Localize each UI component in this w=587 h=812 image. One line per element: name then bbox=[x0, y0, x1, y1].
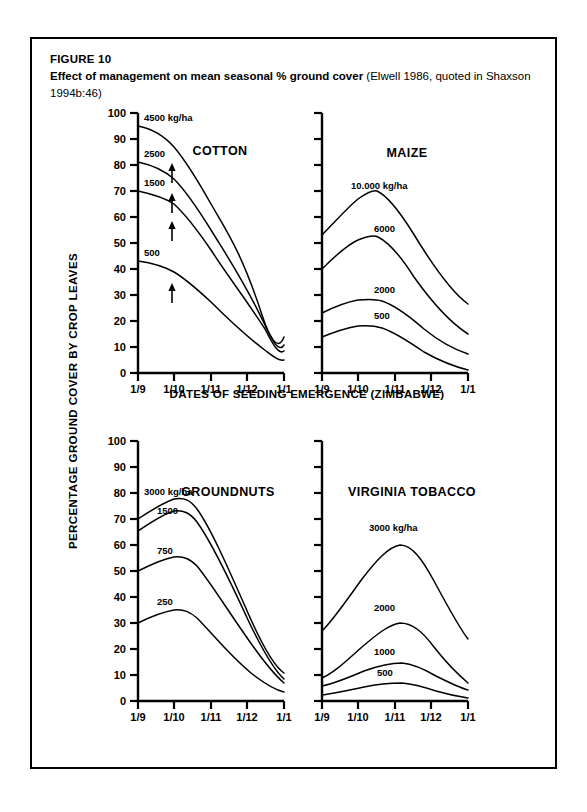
figure-number: FIGURE 10 bbox=[50, 51, 537, 68]
ytick-50: 50 bbox=[114, 565, 126, 577]
curve-maize-500 bbox=[322, 326, 468, 370]
cotton-curves bbox=[138, 126, 284, 360]
series-label-maize-10000: 10.000 kg/ha bbox=[351, 180, 408, 191]
series-label-tobacco-3000: 3000 kg/ha bbox=[369, 522, 418, 533]
curve-groundnuts-1500 bbox=[138, 511, 284, 679]
groundnuts-series-labels: 3000 kg/ha 1500 750 250 bbox=[144, 486, 193, 607]
groundnuts-axes: 0 10 20 30 40 50 60 70 80 90 100 bbox=[108, 435, 292, 723]
xtick-1-1: 1/1 bbox=[460, 711, 475, 723]
ytick-30: 30 bbox=[114, 289, 126, 301]
xtick-1-12: 1/12 bbox=[420, 711, 441, 723]
xtick-1-10: 1/10 bbox=[163, 383, 184, 395]
series-label-tobacco-2000: 2000 bbox=[374, 602, 395, 613]
xtick-1-10: 1/10 bbox=[163, 711, 184, 723]
curve-maize-2000 bbox=[322, 299, 468, 354]
ytick-0: 0 bbox=[120, 695, 126, 707]
curve-tobacco-500 bbox=[322, 683, 468, 698]
figure-title-line: Effect of management on mean seasonal % … bbox=[50, 68, 537, 102]
series-label-tobacco-1000: 1000 bbox=[374, 646, 395, 657]
xtick-1-11: 1/11 bbox=[385, 383, 406, 395]
maize-curves bbox=[322, 191, 468, 370]
chart-cotton: 0 10 20 30 40 50 60 70 80 90 100 bbox=[80, 105, 300, 395]
ytick-80: 80 bbox=[114, 159, 126, 171]
xtick-1-10: 1/10 bbox=[347, 383, 368, 395]
ytick-90: 90 bbox=[114, 133, 126, 145]
tobacco-curves bbox=[322, 545, 468, 698]
series-label-cotton-2500: 2500 bbox=[144, 148, 165, 159]
xtick-1-9: 1/9 bbox=[314, 711, 329, 723]
ytick-60: 60 bbox=[114, 211, 126, 223]
series-label-groundnuts-1500: 1500 bbox=[157, 505, 178, 516]
ytick-90: 90 bbox=[114, 461, 126, 473]
xtick-1-12: 1/12 bbox=[236, 711, 257, 723]
figure-frame: FIGURE 10 Effect of management on mean s… bbox=[30, 37, 557, 769]
ytick-70: 70 bbox=[114, 513, 126, 525]
maize-y-ticks bbox=[314, 113, 322, 373]
series-label-groundnuts-750: 750 bbox=[157, 545, 173, 556]
series-label-maize-500: 500 bbox=[374, 310, 390, 321]
ytick-40: 40 bbox=[114, 263, 126, 275]
ytick-50: 50 bbox=[114, 237, 126, 249]
xtick-1-1: 1/1 bbox=[460, 383, 475, 395]
cotton-x-tick-labels: 1/9 1/10 1/11 1/12 1/1 bbox=[130, 383, 291, 395]
tobacco-y-ticks bbox=[314, 441, 322, 701]
ytick-60: 60 bbox=[114, 539, 126, 551]
ytick-40: 40 bbox=[114, 591, 126, 603]
series-label-groundnuts-250: 250 bbox=[157, 596, 173, 607]
ytick-20: 20 bbox=[114, 643, 126, 655]
cotton-arrows bbox=[168, 163, 175, 303]
figure-title: Effect of management on mean seasonal % … bbox=[50, 70, 363, 82]
arrowhead-1500 bbox=[168, 221, 175, 229]
ytick-10: 10 bbox=[114, 669, 126, 681]
panel-maize: 1/9 1/10 1/11 1/12 1/1 MAIZE 10.000 kg/h… bbox=[312, 105, 542, 395]
xtick-1-1: 1/1 bbox=[276, 383, 291, 395]
arrowhead-4500 bbox=[168, 163, 175, 171]
panel-groundnuts: 0 10 20 30 40 50 60 70 80 90 100 bbox=[80, 433, 300, 723]
figure-caption: FIGURE 10 Effect of management on mean s… bbox=[50, 51, 537, 102]
series-label-cotton-4500: 4500 kg/ha bbox=[144, 112, 193, 123]
curve-cotton-1500 bbox=[138, 191, 284, 352]
cotton-y-tick-labels: 0 10 20 30 40 50 60 70 80 90 100 bbox=[108, 107, 126, 379]
series-label-cotton-1500: 1500 bbox=[144, 177, 165, 188]
series-label-maize-6000: 6000 bbox=[374, 223, 395, 234]
xtick-1-10: 1/10 bbox=[347, 711, 368, 723]
xtick-1-11: 1/11 bbox=[201, 711, 222, 723]
xtick-1-9: 1/9 bbox=[130, 711, 145, 723]
ytick-30: 30 bbox=[114, 617, 126, 629]
xtick-1-12: 1/12 bbox=[236, 383, 257, 395]
panel-cotton: 0 10 20 30 40 50 60 70 80 90 100 bbox=[80, 105, 300, 395]
groundnuts-y-tick-labels: 0 10 20 30 40 50 60 70 80 90 100 bbox=[108, 435, 126, 707]
ytick-70: 70 bbox=[114, 185, 126, 197]
series-label-tobacco-500: 500 bbox=[377, 667, 393, 678]
chart-title-groundnuts: GROUNDNUTS bbox=[181, 485, 275, 499]
chart-title-cotton: COTTON bbox=[193, 144, 248, 158]
y-axis-title: PERCENTAGE GROUND COVER BY CROP LEAVES bbox=[67, 166, 79, 636]
ytick-10: 10 bbox=[114, 341, 126, 353]
maize-x-tick-labels: 1/9 1/10 1/11 1/12 1/1 bbox=[314, 383, 475, 395]
chart-title-maize: MAIZE bbox=[387, 146, 428, 160]
xtick-1-12: 1/12 bbox=[420, 383, 441, 395]
ytick-100: 100 bbox=[108, 107, 126, 119]
ytick-100: 100 bbox=[108, 435, 126, 447]
tobacco-x-tick-labels: 1/9 1/10 1/11 1/12 1/1 bbox=[314, 711, 475, 723]
chart-groundnuts: 0 10 20 30 40 50 60 70 80 90 100 bbox=[80, 433, 300, 723]
tobacco-series-labels: 3000 kg/ha 2000 1000 500 bbox=[369, 522, 418, 678]
chart-virginia-tobacco: 1/9 1/10 1/11 1/12 1/1 VIRGINIA TOBACCO … bbox=[312, 433, 542, 723]
arrowhead-2500 bbox=[168, 193, 175, 201]
xtick-1-1: 1/1 bbox=[276, 711, 291, 723]
curve-groundnuts-250 bbox=[138, 610, 284, 692]
arrowhead-500 bbox=[168, 283, 175, 291]
cotton-series-labels: 4500 kg/ha 2500 1500 500 bbox=[144, 112, 193, 258]
curve-cotton-2500 bbox=[138, 162, 284, 348]
series-label-groundnuts-3000: 3000 kg/ha bbox=[144, 486, 193, 497]
xtick-1-11: 1/11 bbox=[201, 383, 222, 395]
curve-cotton-500 bbox=[138, 261, 284, 360]
series-label-maize-2000: 2000 bbox=[374, 284, 395, 295]
ytick-0: 0 bbox=[120, 367, 126, 379]
chart-title-virginia-tobacco: VIRGINIA TOBACCO bbox=[348, 485, 476, 499]
groundnuts-x-tick-labels: 1/9 1/10 1/11 1/12 1/1 bbox=[130, 711, 291, 723]
xtick-1-9: 1/9 bbox=[314, 383, 329, 395]
ytick-80: 80 bbox=[114, 487, 126, 499]
ytick-20: 20 bbox=[114, 315, 126, 327]
curve-tobacco-1000 bbox=[322, 663, 468, 690]
